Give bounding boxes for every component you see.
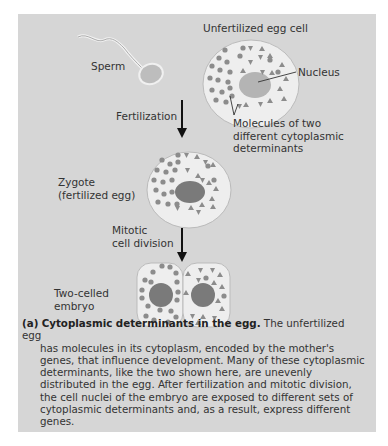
- arrow-down-icon: [177, 100, 187, 138]
- label-mitotic-division: Mitotic cell division: [112, 224, 174, 249]
- label-sperm: Sperm: [91, 60, 125, 73]
- label-nucleus: Nucleus: [298, 66, 340, 79]
- caption-title: Cytoplasmic determinants in the egg.: [42, 317, 261, 329]
- figure-caption: (a) Cytoplasmic determinants in the egg.…: [22, 317, 367, 428]
- label-two-celled-embryo: Two-celled embryo: [54, 287, 109, 312]
- caption-body: has molecules in its cytoplasm, encoded …: [22, 342, 367, 428]
- label-unfertilized-egg: Unfertilized egg cell: [203, 22, 308, 35]
- label-zygote: Zygote (fertilized egg): [58, 176, 135, 201]
- unfertilized-egg-icon: [203, 40, 299, 128]
- zygote-icon: [147, 152, 231, 228]
- arrow-down-icon-2: [177, 228, 187, 262]
- label-molecules: Molecules of two different cytoplasmic d…: [233, 117, 344, 155]
- caption-tag: (a): [22, 317, 38, 329]
- label-fertilization: Fertilization: [116, 110, 177, 123]
